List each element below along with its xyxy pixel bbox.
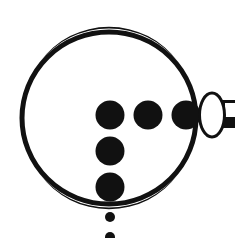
- small-dot: [105, 232, 115, 238]
- filled-dot: [172, 101, 201, 130]
- small-dot: [105, 212, 115, 222]
- filled-dot: [96, 101, 125, 130]
- filled-dot: [134, 101, 163, 130]
- filled-dot: [96, 137, 125, 166]
- symbol-svg: [0, 0, 235, 238]
- vertical-dots: [96, 137, 125, 202]
- small-dots: [105, 212, 115, 238]
- oval-attachment: [200, 93, 225, 137]
- filled-dot: [96, 173, 125, 202]
- horizontal-dots: [96, 101, 201, 130]
- symbol-figure: [0, 0, 235, 238]
